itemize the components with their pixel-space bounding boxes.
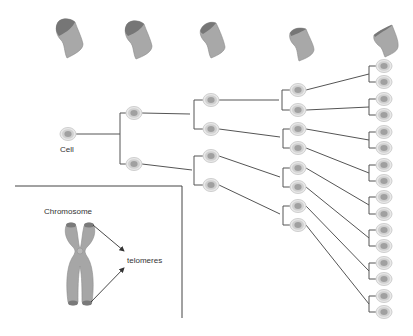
chromosome-fragment-gen2 bbox=[200, 22, 225, 58]
chromosome-fragment-gen1 bbox=[125, 21, 152, 59]
inset-border bbox=[15, 186, 182, 318]
cell-icon bbox=[203, 94, 219, 107]
cell-icon bbox=[290, 162, 306, 175]
lineage-tree-lines bbox=[76, 66, 376, 312]
cells-gen2 bbox=[203, 94, 219, 192]
cell-icon bbox=[290, 200, 306, 213]
telomere-cap-icon bbox=[84, 223, 94, 228]
cell-icon bbox=[376, 191, 392, 204]
cell-icon bbox=[290, 104, 306, 117]
cell-icon bbox=[290, 142, 306, 155]
cell-icon bbox=[203, 123, 219, 136]
cell-icon bbox=[60, 128, 76, 141]
cell-icon bbox=[203, 179, 219, 192]
cells-gen4 bbox=[376, 60, 392, 319]
cell-icon bbox=[376, 93, 392, 106]
cell-icon bbox=[376, 208, 392, 221]
cells-gen3 bbox=[290, 84, 306, 232]
cell-icon bbox=[376, 126, 392, 139]
cell-icon bbox=[376, 159, 392, 172]
cell-icon bbox=[376, 224, 392, 237]
centromere-icon bbox=[77, 248, 83, 254]
chromosome-inset: Chromosome telomeres bbox=[15, 186, 182, 318]
telomere-cap-icon bbox=[66, 223, 76, 228]
cell-label: Cell bbox=[60, 145, 74, 154]
telomere-cap-icon bbox=[68, 301, 78, 306]
cell-icon bbox=[376, 273, 392, 286]
telomere-diagram: Cell Chro bbox=[0, 0, 413, 336]
cell-icon bbox=[290, 219, 306, 232]
cell-icon bbox=[376, 240, 392, 253]
chromosome-fragment-gen4 bbox=[374, 25, 398, 57]
cell-icon bbox=[290, 181, 306, 194]
chromosome-fragment-gen3 bbox=[290, 28, 314, 61]
cell-icon bbox=[376, 109, 392, 122]
cell-icon bbox=[290, 84, 306, 97]
cell-icon bbox=[376, 76, 392, 89]
cell-icon bbox=[376, 290, 392, 303]
telomeres-label: telomeres bbox=[127, 256, 162, 265]
telomere-cap-icon bbox=[82, 301, 92, 306]
cell-icon bbox=[376, 257, 392, 270]
cell-icon bbox=[376, 306, 392, 319]
cell-icon bbox=[376, 60, 392, 73]
chromosome-fragments-row bbox=[56, 19, 398, 61]
cell-icon bbox=[290, 123, 306, 136]
cell-icon bbox=[203, 150, 219, 163]
cell-icon bbox=[376, 142, 392, 155]
chromosome-label: Chromosome bbox=[44, 207, 93, 216]
cell-icon bbox=[126, 158, 142, 171]
cells-gen1 bbox=[126, 107, 142, 171]
cells-gen0 bbox=[60, 128, 76, 141]
chromosome-x-icon bbox=[65, 223, 95, 306]
arrow-icon bbox=[93, 225, 124, 251]
chromosome-fragment-gen0 bbox=[56, 19, 83, 58]
cell-icon bbox=[126, 107, 142, 120]
cell-icon bbox=[376, 175, 392, 188]
arrow-icon bbox=[91, 268, 124, 302]
